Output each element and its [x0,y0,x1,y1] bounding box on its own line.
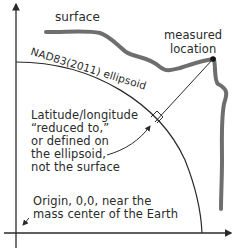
measured-location-label: measured location [164,29,222,56]
measured-location-line-2: location [164,43,222,56]
origin-pointer-arrow [23,218,29,225]
origin-note-line-2: mass center of the Earth [33,208,178,221]
geodetic-diagram: surface measured location NAD83(2011) el… [0,0,243,252]
right-angle-marker [151,111,163,123]
origin-note: Origin, 0,0, near the mass center of the… [33,195,178,221]
surface-label: surface [55,11,100,24]
latlon-note: Latitude/longitude “reduced to,” or defi… [31,109,138,174]
latlon-note-line-5: not the surface [31,161,138,174]
measured-location-line-1: measured [164,29,222,42]
